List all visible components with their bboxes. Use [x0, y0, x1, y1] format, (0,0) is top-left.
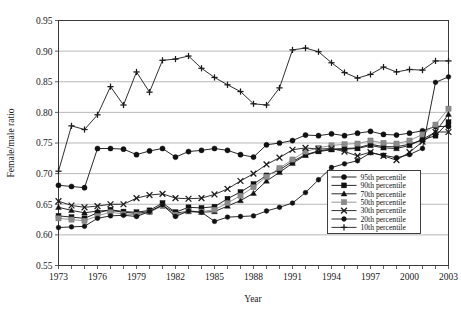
data-point-gray-square — [433, 122, 438, 127]
data-point-filled-circle-sm — [186, 209, 191, 214]
x-tick-label: 1982 — [166, 272, 185, 282]
data-point-filled-circle-sm — [134, 214, 139, 219]
data-point-filled-circle-sm — [342, 161, 347, 166]
y-tick-label: 0.60 — [36, 230, 53, 240]
data-point-filled-circle — [134, 152, 139, 157]
data-point-filled-circle — [225, 148, 230, 153]
data-point-filled-circle-sm — [56, 225, 61, 230]
data-point-filled-circle-sm — [290, 201, 295, 206]
data-point-filled-circle-sm — [147, 209, 152, 214]
data-point-filled-circle — [238, 152, 243, 157]
data-point-filled-circle — [329, 131, 334, 136]
data-point-gray-square — [381, 140, 386, 145]
data-point-filled-circle-sm — [316, 177, 321, 182]
data-point-gray-square — [290, 157, 295, 162]
data-point-filled-circle — [381, 132, 386, 137]
x-tick-label: 1979 — [127, 272, 146, 282]
data-point-filled-circle-sm — [277, 205, 282, 210]
x-axis-title: Year — [244, 294, 262, 304]
data-point-filled-circle-sm — [355, 158, 360, 163]
data-point-filled-circle-sm — [121, 213, 126, 218]
data-point-filled-circle — [342, 133, 347, 138]
data-point-filled-circle-sm — [82, 224, 87, 229]
data-point-filled-circle — [160, 146, 165, 151]
data-point-filled-circle-sm — [394, 155, 399, 160]
data-point-filled-circle-sm — [446, 74, 451, 79]
x-tick-label: 1988 — [244, 272, 263, 282]
data-point-filled-circle — [290, 138, 295, 143]
data-point-filled-circle-sm — [251, 213, 256, 218]
data-point-gray-square — [355, 141, 360, 146]
data-point-filled-circle — [186, 149, 191, 154]
x-tick-label: 2003 — [439, 272, 458, 282]
data-point-filled-circle — [121, 147, 126, 152]
y-tick-label: 0.95 — [36, 16, 53, 26]
data-point-filled-circle — [95, 146, 100, 151]
data-point-filled-circle — [277, 140, 282, 145]
data-point-gray-square — [341, 200, 346, 205]
data-point-filled-circle-sm — [407, 152, 412, 157]
data-point-gray-square — [238, 193, 243, 198]
x-tick-label: 1976 — [88, 272, 107, 282]
data-point-filled-circle — [407, 131, 412, 136]
y-axis-tick-labels: 0.550.600.650.700.750.800.850.900.95 — [36, 16, 53, 271]
data-point-filled-circle — [264, 142, 269, 147]
data-point-filled-circle — [303, 132, 308, 137]
data-point-filled-circle — [251, 154, 256, 159]
data-point-filled-circle-sm — [420, 146, 425, 151]
data-point-filled-circle — [394, 132, 399, 137]
data-point-filled-circle — [355, 131, 360, 136]
data-point-filled-circle — [147, 148, 152, 153]
y-tick-label: 0.70 — [36, 169, 53, 179]
data-point-filled-circle-sm — [95, 216, 100, 221]
data-point-gray-square — [342, 142, 347, 147]
data-point-gray-square — [446, 106, 451, 111]
y-tick-label: 0.55 — [36, 261, 53, 271]
data-point-filled-circle — [69, 184, 74, 189]
data-point-filled-circle — [316, 133, 321, 138]
data-point-gray-square — [394, 141, 399, 146]
data-point-filled-circle — [82, 185, 87, 190]
legend-label: 10th percentile — [361, 223, 407, 232]
data-point-filled-square — [342, 183, 347, 188]
data-point-filled-circle — [368, 129, 373, 134]
x-tick-label: 1985 — [205, 272, 224, 282]
chart-background — [0, 0, 461, 315]
data-point-gray-square — [82, 218, 87, 223]
data-point-filled-circle — [56, 183, 61, 188]
data-point-filled-circle-sm — [225, 215, 230, 220]
y-tick-label: 0.85 — [36, 77, 53, 87]
x-tick-label: 1997 — [361, 272, 380, 282]
data-point-filled-circle-sm — [69, 225, 74, 230]
data-point-gray-square — [69, 217, 74, 222]
data-point-filled-circle — [108, 146, 113, 151]
data-point-gray-square — [368, 138, 373, 143]
data-point-filled-circle-sm — [212, 219, 217, 224]
data-point-gray-square — [251, 185, 256, 190]
chart-legend[interactable]: 95th percentile90th percentile70th perce… — [328, 171, 421, 234]
data-point-filled-circle-sm — [160, 202, 165, 207]
female-male-ratio-line-chart: 0.550.600.650.700.750.800.850.900.95 197… — [0, 0, 461, 315]
data-point-filled-circle-sm — [342, 217, 347, 222]
data-point-gray-square — [407, 138, 412, 143]
data-point-gray-square — [264, 174, 269, 179]
data-point-filled-circle-sm — [329, 165, 334, 170]
x-tick-label: 2000 — [400, 272, 419, 282]
y-tick-label: 0.90 — [36, 47, 53, 57]
data-point-filled-circle-sm — [303, 190, 308, 195]
y-axis-title: Female/male ratio — [6, 108, 16, 177]
x-tick-label: 1991 — [283, 272, 302, 282]
data-point-gray-square — [56, 216, 61, 221]
data-point-gray-square — [277, 166, 282, 171]
y-tick-label: 0.80 — [36, 108, 53, 118]
data-point-filled-circle-sm — [264, 209, 269, 214]
x-tick-label: 1973 — [49, 272, 68, 282]
y-tick-label: 0.65 — [36, 200, 53, 210]
data-point-filled-circle — [212, 146, 217, 151]
x-tick-label: 1994 — [322, 272, 341, 282]
chart-container: 0.550.600.650.700.750.800.850.900.95 197… — [0, 0, 461, 315]
y-tick-label: 0.75 — [36, 138, 53, 148]
data-point-filled-circle-sm — [199, 210, 204, 215]
data-point-gray-square — [212, 207, 217, 212]
data-point-filled-circle — [341, 174, 346, 179]
